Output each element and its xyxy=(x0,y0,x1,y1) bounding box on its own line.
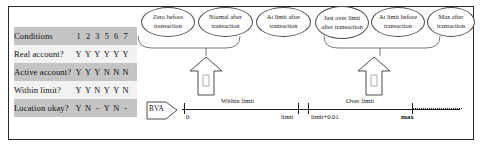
cell-value: N xyxy=(112,68,121,77)
cell-value: - xyxy=(121,104,130,113)
tick-limit-plus xyxy=(308,103,309,114)
cell-value: Y xyxy=(93,50,102,59)
row-values-location-okay: YN-YN- xyxy=(74,99,137,117)
callout-normal-after: Normal after transaction xyxy=(198,7,253,37)
tick-label-max: max xyxy=(401,113,414,121)
tick-limit xyxy=(298,103,299,114)
column-number: 7 xyxy=(121,32,130,41)
band-label-over-limit: Over limit xyxy=(346,97,374,104)
callout-text: At limit before transaction xyxy=(375,13,421,30)
tick-zero xyxy=(184,103,185,114)
callout-text: Normal after transaction xyxy=(202,13,249,30)
cell-value: Y xyxy=(83,68,92,77)
tick-label-limit-plus: limit+0.01 xyxy=(311,113,339,120)
cell-value: N xyxy=(121,68,130,77)
table-row: Location okay? YN-YN- xyxy=(14,99,137,117)
callout-text: Zero before transaction xyxy=(145,13,191,30)
callout-max-after: Max after transaction xyxy=(427,7,475,37)
tick-label-zero: 0 xyxy=(186,113,189,120)
column-number: 5 xyxy=(102,32,111,41)
table-row: Real account? YYYYYY xyxy=(14,45,137,63)
cell-value: Y xyxy=(102,50,111,59)
row-values-real-account: YYYYYY xyxy=(74,45,137,63)
cell-value: Y xyxy=(83,86,92,95)
cell-value: N xyxy=(93,86,102,95)
callout-at-limit-after: At limit after transaction xyxy=(256,7,311,37)
cell-value: Y xyxy=(74,86,83,95)
table-header-row: Conditions 123567 xyxy=(14,27,137,45)
cell-value: Y xyxy=(74,104,83,113)
table-row: Active account? YYYNNN xyxy=(14,63,137,81)
row-label-real-account: Real account? xyxy=(14,45,74,63)
column-number: 1 xyxy=(74,32,83,41)
up-arrow-over-limit xyxy=(357,56,391,96)
cell-value: Y xyxy=(112,50,121,59)
cell-value: Y xyxy=(102,104,111,113)
number-line-dotted-tail xyxy=(412,108,462,109)
callout-zero-before: Zero before transaction xyxy=(141,7,195,37)
row-label-within-limit: Within limit? xyxy=(14,81,74,99)
cell-value: N xyxy=(102,68,111,77)
column-number: 6 xyxy=(112,32,121,41)
column-number: 3 xyxy=(93,32,102,41)
cell-value: N xyxy=(112,104,121,113)
leader-lines-left xyxy=(130,34,250,58)
callout-text: Max after transaction xyxy=(431,13,471,30)
cell-value: Y xyxy=(74,50,83,59)
cell-value: Y xyxy=(93,68,102,77)
row-label-location-okay: Location okay? xyxy=(14,99,74,117)
column-number: 2 xyxy=(83,32,92,41)
callout-text: Just over limit after transaction xyxy=(319,14,365,31)
row-values-within-limit: YYNYYN xyxy=(74,81,137,99)
bva-label: BVA xyxy=(149,105,164,113)
condition-table: Conditions 123567 Real account? YYYYYY A… xyxy=(14,27,137,117)
bva-arrow-shape: BVA xyxy=(146,99,178,121)
cell-value: Y xyxy=(102,86,111,95)
up-arrow-within-limit xyxy=(189,56,223,96)
condition-column-numbers: 123567 xyxy=(74,27,137,45)
callout-text: At limit after transaction xyxy=(260,13,307,30)
tick-label-limit: limit xyxy=(281,113,293,120)
callout-at-limit-before: At limit before transaction xyxy=(371,7,425,37)
bva-diagram: Conditions 123567 Real account? YYYYYY A… xyxy=(0,0,484,148)
cell-value: N xyxy=(121,86,130,95)
leader-lines-right xyxy=(318,34,448,58)
band-label-within-limit: Within limit xyxy=(221,97,254,104)
table-row: Within limit? YYNYYN xyxy=(14,81,137,99)
cell-value: Y xyxy=(112,86,121,95)
row-values-active-account: YYYNNN xyxy=(74,63,137,81)
cell-value: Y xyxy=(121,50,130,59)
cell-value: N xyxy=(83,104,92,113)
row-label-active-account: Active account? xyxy=(14,63,74,81)
number-line-axis xyxy=(182,109,460,110)
conditions-header-label: Conditions xyxy=(14,27,74,45)
cell-value: Y xyxy=(83,50,92,59)
cell-value: Y xyxy=(74,68,83,77)
cell-value: - xyxy=(93,104,102,113)
